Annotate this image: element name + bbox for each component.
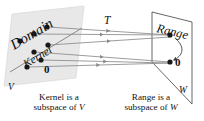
range-point bbox=[167, 59, 172, 64]
domain-zero-label: 0 bbox=[44, 63, 50, 75]
kernel-range-diagram: Domain Kernel 0 V T Range 0 W Kernel is … bbox=[0, 0, 204, 121]
kernel-caption-symbol: V bbox=[79, 102, 85, 112]
kernel-caption-line1: Kernel is a bbox=[39, 92, 79, 102]
kernel-caption: Kernel is a subspace of V bbox=[18, 92, 100, 113]
range-caption-symbol: W bbox=[170, 102, 178, 112]
range-caption-line2: subspace of bbox=[124, 102, 169, 112]
kernel-caption-line2: subspace of bbox=[33, 102, 78, 112]
range-zero-label: 0 bbox=[175, 56, 181, 68]
range-caption: Range is a subspace of W bbox=[108, 92, 194, 113]
transformation-label: T bbox=[104, 14, 112, 26]
range-caption-line1: Range is a bbox=[132, 92, 170, 102]
